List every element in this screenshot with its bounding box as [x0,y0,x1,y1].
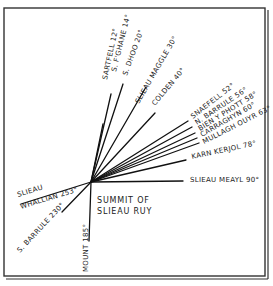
bearing-diagram: SARTFELL 12° S. F'GHANE 14° S. DHOO 20° … [0,0,273,286]
label-mount: MOUNT 185° [82,224,90,272]
line-mullagh [91,143,199,182]
line-sfghane [91,94,111,182]
line-carraghyn [91,138,197,182]
label-meayl: SLIEAU MEAYL 90° [190,176,259,184]
line-karn [91,160,186,182]
line-meayl [91,181,183,182]
center-label-line2: SLIEAU RUY [97,207,152,216]
label-karn: KARN KERJOL 78° [191,139,257,161]
center-label-line1: SUMMIT OF [97,196,150,205]
line-bien [91,133,195,182]
